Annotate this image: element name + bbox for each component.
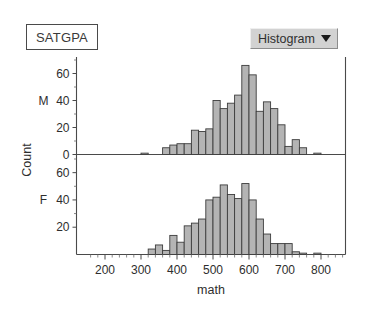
bar-f-440 bbox=[191, 223, 198, 254]
bar-m-540 bbox=[227, 103, 234, 154]
x-tick-label-400: 400 bbox=[167, 263, 187, 277]
bar-m-680 bbox=[278, 125, 285, 155]
bar-f-780 bbox=[314, 253, 321, 254]
bar-f-620 bbox=[256, 219, 263, 254]
bar-m-620 bbox=[256, 111, 263, 154]
bar-f-520 bbox=[220, 185, 227, 255]
x-tick-label-500: 500 bbox=[203, 263, 223, 277]
y-tick-label-m-60: 60 bbox=[56, 67, 70, 81]
y-tick-label-m-20: 20 bbox=[56, 121, 70, 135]
bar-f-680 bbox=[278, 244, 285, 255]
bar-m-380 bbox=[170, 145, 177, 154]
bar-m-300 bbox=[141, 153, 148, 154]
x-tick-label-600: 600 bbox=[239, 263, 259, 277]
bar-f-600 bbox=[249, 200, 256, 255]
histogram-window: SATGPA Histogram 0204060M204060F20030040… bbox=[0, 0, 370, 313]
bar-f-460 bbox=[199, 219, 206, 254]
bar-f-420 bbox=[184, 226, 191, 255]
bar-m-400 bbox=[177, 144, 184, 155]
y-axis-title: Count bbox=[20, 143, 34, 177]
bar-m-360 bbox=[163, 148, 170, 155]
bar-f-500 bbox=[213, 197, 220, 254]
panel-label-m: M bbox=[39, 94, 49, 108]
bar-f-540 bbox=[227, 194, 234, 254]
bar-m-780 bbox=[314, 153, 321, 154]
bar-m-440 bbox=[191, 130, 198, 154]
bar-f-580 bbox=[242, 184, 249, 255]
bar-f-640 bbox=[263, 234, 270, 254]
bar-f-480 bbox=[206, 200, 213, 255]
bar-f-400 bbox=[177, 242, 184, 254]
bar-m-420 bbox=[184, 144, 191, 155]
bar-f-340 bbox=[155, 245, 162, 255]
bar-m-460 bbox=[199, 132, 206, 155]
bar-m-700 bbox=[285, 146, 292, 154]
y-tick-label-m-40: 40 bbox=[56, 94, 70, 108]
bar-m-500 bbox=[213, 101, 220, 155]
bar-f-700 bbox=[285, 244, 292, 255]
plot-svg: 0204060M204060F200300400500600700800math… bbox=[0, 0, 370, 313]
y-tick-label-f-40: 40 bbox=[56, 193, 70, 207]
bar-f-380 bbox=[170, 235, 177, 254]
bar-m-660 bbox=[271, 109, 278, 155]
x-tick-label-200: 200 bbox=[95, 263, 115, 277]
bar-f-360 bbox=[163, 250, 170, 254]
bar-m-520 bbox=[220, 109, 227, 155]
bar-m-740 bbox=[299, 148, 306, 155]
bar-f-660 bbox=[271, 244, 278, 255]
x-tick-label-800: 800 bbox=[311, 263, 331, 277]
bar-m-560 bbox=[235, 95, 242, 154]
y-tick-label-f-20: 20 bbox=[56, 220, 70, 234]
bar-m-720 bbox=[292, 140, 299, 155]
bar-m-600 bbox=[249, 75, 256, 155]
y-tick-label-f-60: 60 bbox=[56, 166, 70, 180]
bar-m-640 bbox=[263, 102, 270, 155]
bar-m-480 bbox=[206, 129, 213, 155]
x-axis-title: math bbox=[197, 283, 225, 297]
bar-m-580 bbox=[242, 65, 249, 154]
y-tick-label-m-0: 0 bbox=[63, 148, 70, 162]
bar-f-560 bbox=[235, 199, 242, 255]
histogram-plot: 0204060M204060F200300400500600700800math… bbox=[0, 0, 370, 313]
x-tick-label-300: 300 bbox=[131, 263, 151, 277]
x-tick-label-700: 700 bbox=[275, 263, 295, 277]
bar-f-720 bbox=[292, 252, 299, 255]
panel-label-f: F bbox=[40, 193, 47, 207]
bar-f-740 bbox=[299, 253, 306, 254]
bar-f-320 bbox=[148, 249, 155, 254]
